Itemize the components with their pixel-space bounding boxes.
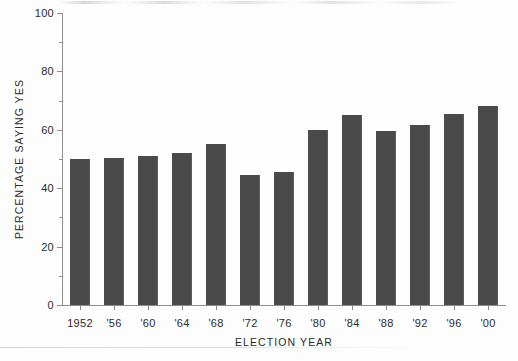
bar <box>478 106 498 305</box>
x-axis-tick-label: '76 <box>276 317 291 329</box>
y-axis-title-label: PERCENTAGE SAYING YES <box>13 79 25 239</box>
scan-artifact-top <box>60 1 460 4</box>
x-axis-tick-label: '84 <box>344 317 359 329</box>
bar <box>70 159 90 305</box>
bar <box>206 144 226 305</box>
y-axis-tick-major <box>57 305 63 306</box>
x-axis-title: ELECTION YEAR <box>63 336 505 348</box>
x-axis-tick-label: '96 <box>446 317 461 329</box>
x-axis-tick <box>488 305 489 310</box>
y-axis-tick-label: 0 <box>48 299 54 311</box>
x-axis-tick-label: '64 <box>174 317 189 329</box>
bar-chart-figure: PERCENTAGE SAYING YES 0204060801001952'5… <box>0 0 518 361</box>
y-axis-tick-major <box>57 188 63 189</box>
bar <box>274 172 294 305</box>
y-axis-tick-label: 80 <box>41 65 54 77</box>
bar <box>240 175 260 305</box>
x-axis-tick <box>148 305 149 310</box>
x-axis-tick-label: 1952 <box>67 317 93 329</box>
x-axis-tick <box>386 305 387 310</box>
bar <box>138 156 158 305</box>
y-axis-tick-major <box>57 247 63 248</box>
y-axis-tick-minor <box>59 217 63 218</box>
y-axis-tick-major <box>57 130 63 131</box>
x-axis-tick <box>454 305 455 310</box>
x-axis-tick <box>114 305 115 310</box>
bar <box>376 131 396 305</box>
x-axis-tick <box>80 305 81 310</box>
x-axis-tick <box>318 305 319 310</box>
x-axis-tick-label: '60 <box>140 317 155 329</box>
x-axis-tick-label: '00 <box>480 317 495 329</box>
x-axis-tick-label: '92 <box>412 317 427 329</box>
x-axis-tick-label: '72 <box>242 317 257 329</box>
x-axis-tick-label: '80 <box>310 317 325 329</box>
y-axis-tick-label: 40 <box>41 182 54 194</box>
y-axis-title: PERCENTAGE SAYING YES <box>12 13 26 305</box>
x-axis-tick-label: '88 <box>378 317 393 329</box>
bar <box>444 114 464 305</box>
y-axis-tick-minor <box>59 42 63 43</box>
x-axis-tick <box>250 305 251 310</box>
plot-area: 0204060801001952'56'60'64'68'72'76'80'84… <box>63 13 505 305</box>
y-axis-tick-minor <box>59 159 63 160</box>
bar <box>308 130 328 305</box>
x-axis-tick <box>284 305 285 310</box>
x-axis-tick-label: '56 <box>106 317 121 329</box>
bar <box>172 153 192 305</box>
x-axis-tick <box>352 305 353 310</box>
y-axis-tick-label: 20 <box>41 241 54 253</box>
x-axis-tick <box>216 305 217 310</box>
y-axis-tick-minor <box>59 101 63 102</box>
x-axis-tick-label: '68 <box>208 317 223 329</box>
bar <box>342 115 362 305</box>
x-axis-tick <box>420 305 421 310</box>
bar <box>410 125 430 305</box>
bar <box>104 158 124 305</box>
y-axis-tick-major <box>57 13 63 14</box>
y-axis-tick-major <box>57 71 63 72</box>
y-axis-tick-label: 60 <box>41 124 54 136</box>
x-axis-tick <box>182 305 183 310</box>
y-axis-tick-minor <box>59 276 63 277</box>
y-axis-tick-label: 100 <box>35 7 54 19</box>
